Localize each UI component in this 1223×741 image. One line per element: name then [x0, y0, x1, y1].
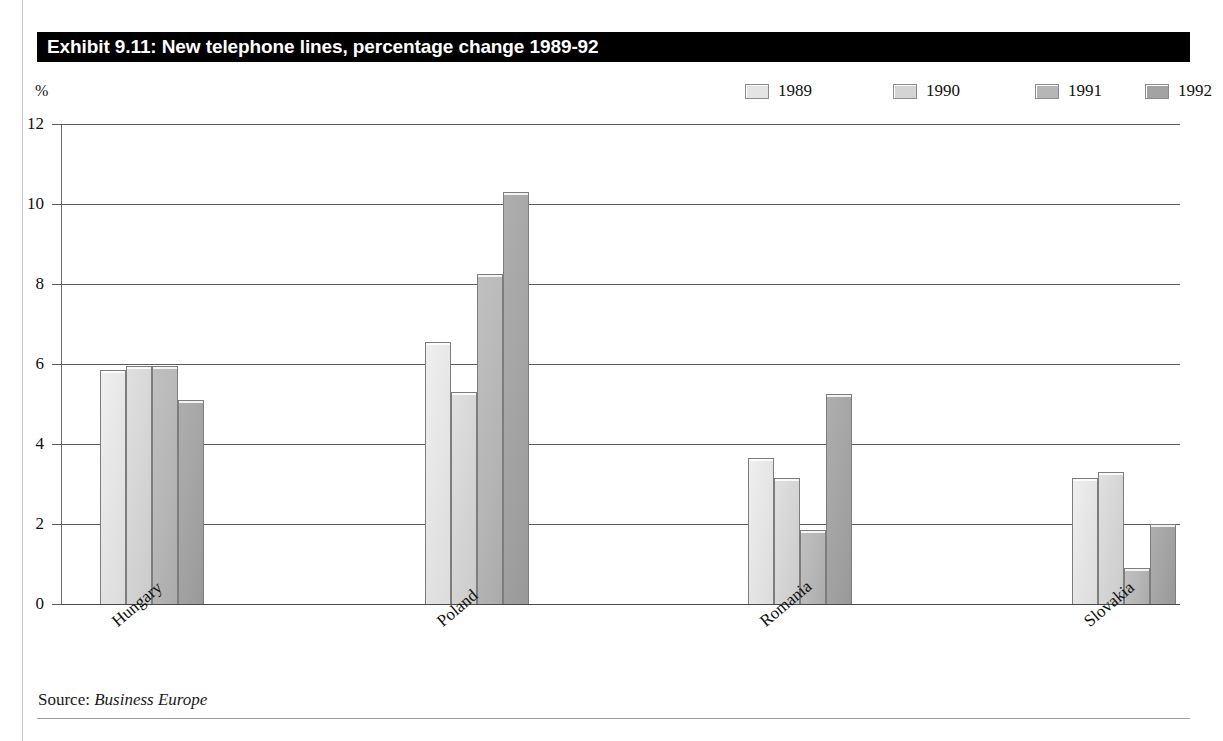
legend-item-1989: 1989	[745, 80, 812, 102]
bar-poland-1991	[477, 274, 503, 604]
legend-item-1992: 1992	[1145, 80, 1212, 102]
legend-swatch-1991	[1035, 84, 1059, 99]
bar-poland-1990	[451, 392, 477, 604]
gridline-12	[62, 124, 1180, 125]
exhibit-title-bar: Exhibit 9.11: New telephone lines, perce…	[37, 32, 1190, 62]
bar-poland-1992	[503, 192, 529, 604]
x-axis-baseline	[62, 604, 1180, 605]
y-tick-10	[52, 204, 62, 205]
y-tick-12	[52, 124, 62, 125]
source-name: Business Europe	[94, 690, 207, 709]
legend-label-1989: 1989	[778, 81, 812, 101]
exhibit-page: Exhibit 9.11: New telephone lines, perce…	[0, 0, 1223, 741]
chart-plot-area: 024681012HungaryPolandRomaniaSlovakia	[62, 124, 1180, 604]
chart-legend: 1989199019911992	[745, 80, 1190, 104]
y-tick-label-8: 8	[4, 275, 44, 292]
y-tick-label-0: 0	[4, 595, 44, 612]
exhibit-title: Exhibit 9.11: New telephone lines, perce…	[47, 36, 599, 58]
gridline-8	[62, 284, 1180, 285]
bar-hungary-1989	[100, 370, 126, 604]
bar-slovakia-1989	[1072, 478, 1098, 604]
legend-label-1990: 1990	[926, 81, 960, 101]
y-tick-label-12: 12	[4, 115, 44, 132]
source-prefix: Source:	[38, 690, 90, 709]
bar-slovakia-1992	[1150, 524, 1176, 604]
y-axis-unit-label: %	[35, 82, 48, 100]
legend-item-1990: 1990	[893, 80, 960, 102]
gridline-2	[62, 524, 1180, 525]
source-line: Source: Business Europe	[38, 690, 207, 710]
gridline-4	[62, 444, 1180, 445]
bar-hungary-1991	[152, 366, 178, 604]
legend-label-1991: 1991	[1068, 81, 1102, 101]
y-tick-8	[52, 284, 62, 285]
y-tick-6	[52, 364, 62, 365]
y-tick-4	[52, 444, 62, 445]
legend-item-1991: 1991	[1035, 80, 1102, 102]
legend-swatch-1990	[893, 84, 917, 99]
bar-romania-1992	[826, 394, 852, 604]
y-tick-label-10: 10	[4, 195, 44, 212]
legend-swatch-1992	[1145, 84, 1169, 99]
y-tick-label-6: 6	[4, 355, 44, 372]
y-tick-2	[52, 524, 62, 525]
gridline-6	[62, 364, 1180, 365]
y-tick-label-2: 2	[4, 515, 44, 532]
y-tick-label-4: 4	[4, 435, 44, 452]
bar-romania-1989	[748, 458, 774, 604]
bar-hungary-1990	[126, 366, 152, 604]
source-rule	[37, 718, 1190, 719]
legend-label-1992: 1992	[1178, 81, 1212, 101]
bar-hungary-1992	[178, 400, 204, 604]
legend-swatch-1989	[745, 84, 769, 99]
bar-poland-1989	[425, 342, 451, 604]
y-tick-0	[52, 604, 62, 605]
gridline-10	[62, 204, 1180, 205]
